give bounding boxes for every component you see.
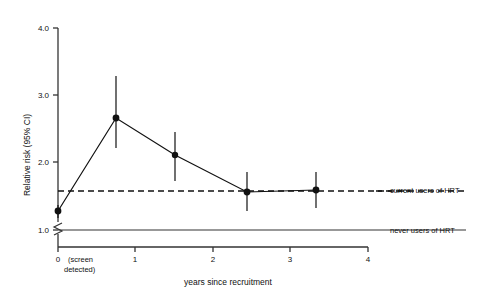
legend-label-never-users: never users of HRT bbox=[390, 226, 455, 235]
y-tick-label-4: 4.0 bbox=[38, 24, 50, 33]
x-tick-label-4: 4 bbox=[366, 255, 371, 264]
x-tick-label-3: 3 bbox=[288, 255, 293, 264]
x-zero-note-line2: detected) bbox=[64, 265, 96, 274]
data-point-3 bbox=[244, 189, 251, 196]
y-axis-break-icon bbox=[54, 223, 62, 235]
series-line bbox=[58, 118, 316, 211]
x-tick-label-2: 2 bbox=[211, 255, 216, 264]
data-point-1 bbox=[113, 115, 120, 122]
legend-label-current-users: current users of HRT bbox=[390, 186, 460, 195]
data-point-0 bbox=[55, 208, 62, 215]
y-tick-label-3: 3.0 bbox=[38, 91, 50, 100]
chart-figure: 4.0 3.0 2.0 1.0 Relative risk (95% CI) 0… bbox=[0, 0, 479, 299]
data-point-2 bbox=[172, 152, 178, 158]
data-point-4 bbox=[313, 187, 320, 194]
x-zero-note-line1: (screen bbox=[68, 255, 93, 264]
y-tick-label-1: 1.0 bbox=[38, 226, 50, 235]
x-tick-label-1: 1 bbox=[133, 255, 138, 264]
y-axis-title: Relative risk (95% CI) bbox=[22, 114, 32, 196]
x-axis-title: years since recruitment bbox=[184, 277, 273, 287]
x-tick-label-0: 0 bbox=[56, 255, 61, 264]
y-tick-label-2: 2.0 bbox=[38, 158, 50, 167]
relative-risk-plot: 4.0 3.0 2.0 1.0 Relative risk (95% CI) 0… bbox=[0, 0, 479, 299]
